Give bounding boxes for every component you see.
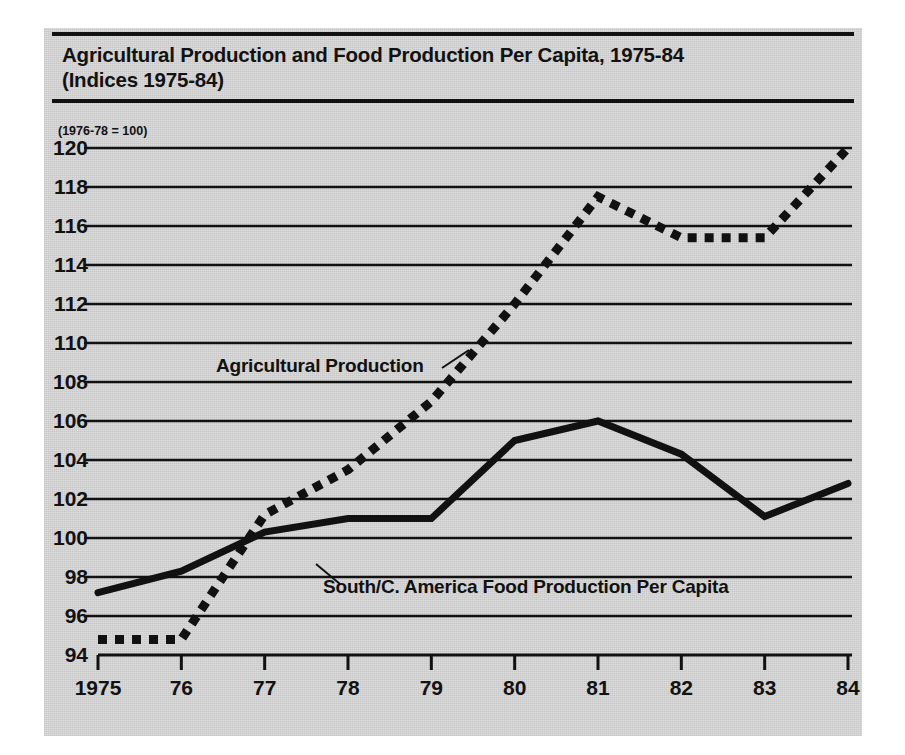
series-line: [98, 148, 848, 639]
y-tick-label: 104: [44, 449, 88, 470]
series-label-food-production-per-capita: South/C. America Food Production Per Cap…: [323, 576, 729, 598]
series-line: [98, 421, 848, 593]
y-tick-label: 114: [44, 254, 88, 275]
y-tick-label: 102: [44, 488, 88, 509]
x-tick-label: 76: [141, 677, 221, 698]
y-tick-label: 100: [44, 527, 88, 548]
x-tick-label: 1975: [58, 677, 138, 698]
y-tick-label: 118: [44, 176, 88, 197]
x-tick-label: 80: [475, 677, 555, 698]
plot-area: Agricultural Production South/C. America…: [44, 28, 862, 736]
data-series-layer: [98, 148, 848, 639]
chart-page: Agricultural Production and Food Product…: [0, 0, 905, 755]
line-chart-svg: [44, 28, 862, 736]
y-tick-label: 110: [44, 332, 88, 353]
y-tick-label: 112: [44, 293, 88, 314]
y-tick-label: 120: [44, 137, 88, 158]
y-tick-label: 116: [44, 215, 88, 236]
y-tick-label: 108: [44, 371, 88, 392]
x-tick-label: 82: [641, 677, 721, 698]
x-tick-label: 84: [808, 677, 888, 698]
y-tick-label: 96: [44, 605, 88, 626]
annotation-leader-lines: [316, 350, 469, 584]
x-tick-label: 77: [225, 677, 305, 698]
series-label-agricultural-production: Agricultural Production: [216, 355, 424, 377]
x-tick-label: 78: [308, 677, 388, 698]
x-axis: [98, 655, 852, 670]
y-tick-label: 94: [44, 644, 88, 665]
x-tick-label: 83: [725, 677, 805, 698]
figure-panel: Agricultural Production and Food Product…: [44, 28, 862, 736]
x-tick-label: 81: [558, 677, 638, 698]
x-tick-label: 79: [391, 677, 471, 698]
y-tick-label: 98: [44, 566, 88, 587]
y-tick-label: 106: [44, 410, 88, 431]
